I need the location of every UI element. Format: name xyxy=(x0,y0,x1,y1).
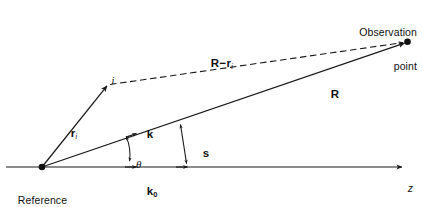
reference-point-label: Reference point xyxy=(0,172,85,207)
vector-s-label: s xyxy=(190,135,209,172)
reference-point-dot xyxy=(39,164,46,171)
reference-point-label-line1: Reference xyxy=(0,195,85,206)
vector-r-i-label: ri xyxy=(58,115,77,154)
scattering-geometry-figure: Observation point Reference point R ri i… xyxy=(0,0,423,207)
vector-r-i-subscript: i xyxy=(75,132,77,141)
vector-s-line xyxy=(181,125,187,164)
vector-k0-subscript: 0 xyxy=(153,190,157,199)
angle-theta-label: θ xyxy=(125,147,141,183)
z-axis-label: z xyxy=(396,172,413,206)
scatterer-index-i-label: i xyxy=(101,64,114,98)
observation-point-label-line2: point xyxy=(303,61,417,72)
observation-point-label-line1: Observation xyxy=(303,27,417,38)
vector-R-label: R xyxy=(318,76,339,113)
vector-R-minus-r-i-label: R−ri xyxy=(198,45,233,84)
vector-R-minus-r-i-subscript: i xyxy=(231,62,233,71)
